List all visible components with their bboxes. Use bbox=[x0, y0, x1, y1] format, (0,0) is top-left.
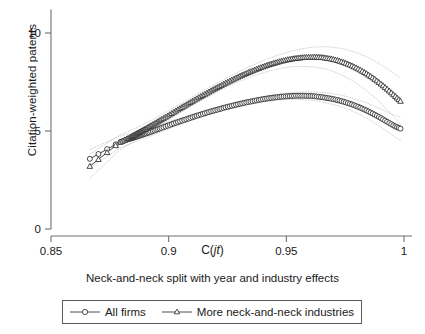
legend-label-all-firms: All firms bbox=[105, 306, 146, 318]
y-axis-label: Citation-weighted patents bbox=[26, 0, 38, 180]
circle-marker bbox=[70, 306, 100, 318]
series-markers bbox=[87, 54, 403, 168]
x-axis-label: C(jt) bbox=[0, 243, 425, 257]
y-tick-label: 0 bbox=[35, 223, 41, 235]
tick-labels: 05100.850.90.951 bbox=[28, 27, 407, 257]
chart-legend: All firms More neck-and-neck industries bbox=[62, 300, 362, 324]
triangle-marker bbox=[162, 306, 192, 318]
chart-caption: Neck-and-neck split with year and indust… bbox=[0, 272, 425, 284]
axes-group bbox=[45, 9, 412, 242]
legend-item-neck-and-neck: More neck-and-neck industries bbox=[162, 306, 354, 318]
legend-label-neck-and-neck: More neck-and-neck industries bbox=[197, 306, 354, 318]
x-axis-label-prefix: C( bbox=[201, 243, 214, 257]
legend-item-all-firms: All firms bbox=[70, 306, 146, 318]
x-axis-label-suffix: ) bbox=[220, 243, 224, 257]
chart-figure: 05100.850.90.951 Citation-weighted paten… bbox=[0, 0, 425, 334]
